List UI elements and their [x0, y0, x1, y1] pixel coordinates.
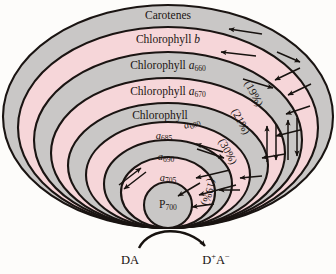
- label-charge-separated-pair: D+A−: [202, 250, 230, 266]
- photosystem-funnel-figure: Carotenes Chlorophyll b Chlorophyll a660…: [0, 0, 336, 274]
- charge-separation-arc: [139, 231, 205, 248]
- label-chlorophyll-b: Chlorophyll b: [136, 33, 200, 46]
- label-chlorophyll: Chlorophyll: [132, 109, 188, 122]
- label-donor-acceptor: DA: [121, 253, 139, 267]
- funnel-diagram-svg: Carotenes Chlorophyll b Chlorophyll a660…: [0, 0, 336, 274]
- label-carotenes: Carotenes: [145, 9, 192, 21]
- redox-arc-path: [139, 231, 205, 248]
- redox-labels: DA D+A−: [121, 250, 230, 266]
